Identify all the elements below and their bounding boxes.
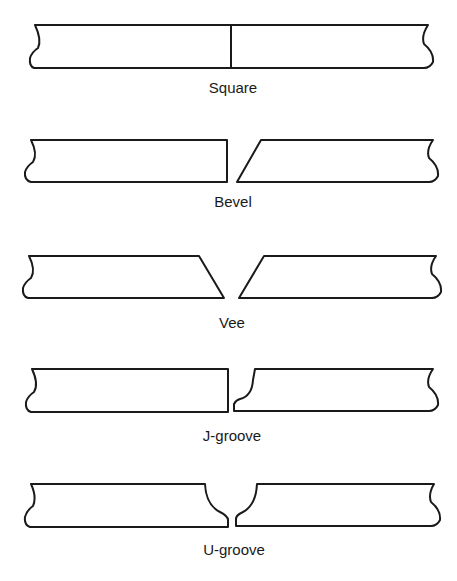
vee-left-plate xyxy=(23,256,224,298)
u-groove-joint xyxy=(25,484,440,527)
u-groove-label: U-groove xyxy=(203,541,265,558)
u-groove-right-plate xyxy=(236,484,440,526)
u-groove-left-plate xyxy=(25,484,228,527)
j-groove-joint xyxy=(26,369,438,412)
bevel-joint xyxy=(25,140,438,182)
vee-label: Vee xyxy=(219,314,245,331)
square-right-plate xyxy=(231,25,433,68)
j-groove-label: J-groove xyxy=(203,427,261,444)
square-left-plate xyxy=(30,25,231,68)
bevel-right-plate xyxy=(237,140,438,182)
vee-right-plate xyxy=(239,256,441,298)
square-joint xyxy=(30,25,433,68)
bevel-left-plate xyxy=(25,140,227,182)
j-groove-left-plate xyxy=(26,369,228,412)
square-label: Square xyxy=(209,79,257,96)
vee-joint xyxy=(23,256,441,298)
bevel-label: Bevel xyxy=(214,193,252,210)
j-groove-right-plate xyxy=(234,369,438,411)
